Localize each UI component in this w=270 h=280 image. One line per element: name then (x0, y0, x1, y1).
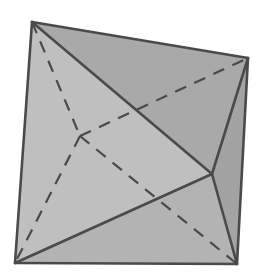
polyhedron-svg (0, 0, 270, 280)
faces-group (15, 22, 248, 264)
polyhedron-figure (0, 0, 270, 280)
edge-E-F (15, 263, 237, 264)
